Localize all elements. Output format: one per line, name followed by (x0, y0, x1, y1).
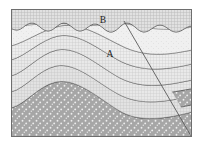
unit-label-b: B (100, 15, 106, 25)
section-body (11, 9, 196, 137)
unit-label-a: A (107, 49, 114, 59)
cross-section-canvas: B A (0, 0, 203, 144)
geologic-cross-section-figure: B A (0, 0, 203, 144)
